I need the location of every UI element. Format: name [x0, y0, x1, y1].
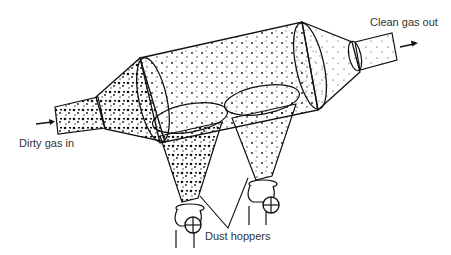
- precipitator-diagram: [0, 0, 451, 255]
- hoppers-label: Dust hoppers: [205, 230, 270, 242]
- leader-line: [200, 178, 248, 228]
- outlet-label: Clean gas out: [370, 16, 438, 28]
- outlet-arrow-icon: [400, 41, 418, 48]
- inlet-arrow-icon: [36, 119, 55, 125]
- inlet-label: Dirty gas in: [19, 137, 74, 149]
- outlet-pipe: [355, 33, 397, 70]
